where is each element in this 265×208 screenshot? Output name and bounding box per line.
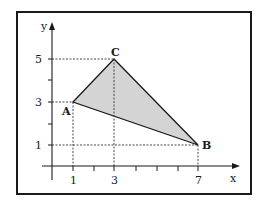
x-tick-label-1: 1 [70,174,77,187]
x-tick-label-3: 3 [111,174,118,187]
y-tick-label-5: 5 [35,53,42,66]
coordinate-diagram: y x 5 3 1 1 3 7 A B C [0,0,265,208]
point-label-b: B [202,139,211,152]
y-tick-label-3: 3 [35,96,42,109]
point-label-a: A [61,105,71,118]
x-axis-arrow-icon [232,163,240,169]
triangle-abc [73,59,198,145]
y-tick-label-1: 1 [35,139,42,152]
point-label-c: C [111,46,120,59]
x-ticks [73,166,198,171]
y-ticks [48,59,52,145]
y-axis-arrow-icon [49,22,55,30]
x-axis-label: x [230,172,237,185]
x-tick-label-7: 7 [195,174,202,187]
y-axis-label: y [40,20,48,33]
